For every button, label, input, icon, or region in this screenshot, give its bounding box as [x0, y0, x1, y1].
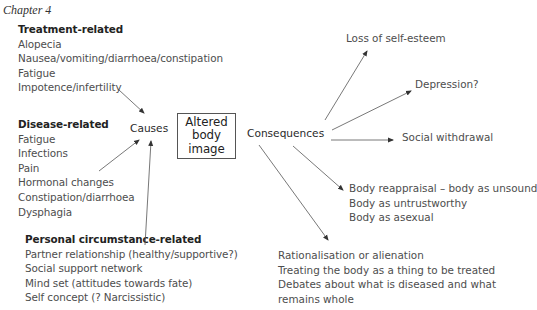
arrow-personal-to-causes: [145, 141, 151, 245]
arrow-to-rationalisation: [259, 145, 328, 240]
arrow-treatment-to-causes: [119, 90, 144, 113]
arrow-to-body-reappraisal: [293, 146, 343, 190]
arrow-to-loss-of-self-esteem: [325, 51, 367, 120]
arrow-to-depression: [332, 91, 411, 130]
arrow-disease-to-causes: [99, 140, 139, 171]
